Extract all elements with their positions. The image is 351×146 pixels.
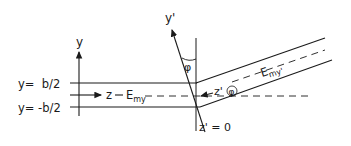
bottom-boundary-label: y= -b/2 bbox=[18, 101, 61, 115]
waveguide-bend-diagram: y y= b/2 y= -b/2 z Emy y' φ z' φ Emy' z'… bbox=[0, 0, 351, 146]
angle-top-label: φ bbox=[184, 61, 191, 74]
z-axis-label: z bbox=[106, 88, 112, 102]
angle-circled-label: φ bbox=[229, 87, 235, 97]
z-prime-zero-label: z' = 0 bbox=[199, 121, 231, 134]
y-prime-axis-line bbox=[172, 30, 205, 132]
z-prime-label: z' bbox=[214, 85, 223, 98]
tilted-top-boundary bbox=[196, 38, 325, 83]
angle-arc-top bbox=[182, 58, 196, 60]
y-axis-label: y bbox=[76, 35, 83, 49]
top-boundary-label: y= b/2 bbox=[18, 77, 60, 91]
field-left-label: Emy bbox=[126, 88, 146, 104]
y-prime-axis-label: y' bbox=[165, 11, 175, 25]
